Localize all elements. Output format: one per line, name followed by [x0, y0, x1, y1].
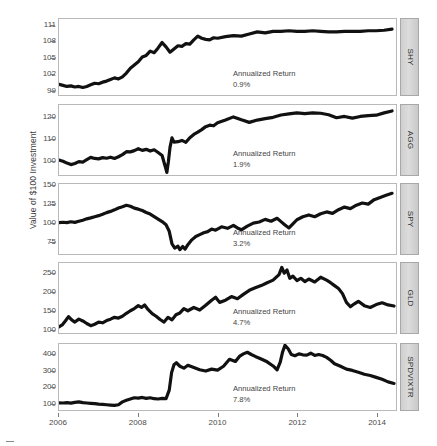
y-axis-ticks-spy: 15012510075 — [0, 183, 56, 255]
annotation-value: 4.7% — [233, 317, 295, 328]
y-tick-mark — [50, 354, 55, 355]
x-tick-label: 2014 — [368, 418, 386, 427]
panel-gld: Annualized Return4.7% — [58, 262, 397, 334]
strip-label-spdvixtr: SPDVIXTR — [400, 343, 419, 411]
plot-area-spdvixtr — [58, 343, 397, 411]
y-tick-mark — [50, 387, 55, 388]
annotation-label: Annualized Return — [233, 149, 295, 158]
series-line-shy — [59, 19, 396, 95]
y-axis-ticks-spdvixtr: 400300200100 — [0, 343, 56, 411]
series-line-agg — [59, 105, 396, 175]
y-tick-mark — [50, 41, 55, 42]
panel-shy: Annualized Return0.9% — [58, 18, 397, 96]
plot-area-agg — [58, 104, 397, 176]
annualized-return-annotation: Annualized Return0.9% — [233, 68, 295, 90]
strip-label-shy: SHY — [400, 18, 419, 96]
annotation-label: Annualized Return — [233, 307, 295, 316]
strip-label-spy: SPY — [400, 183, 419, 255]
x-tick-label: 2010 — [209, 418, 227, 427]
annualized-return-annotation: Annualized Return1.9% — [233, 148, 295, 170]
y-tick-mark — [50, 204, 55, 205]
footer-tickmark — [6, 441, 14, 442]
annualized-return-annotation: Annualized Return3.2% — [233, 227, 295, 249]
y-tick-mark — [50, 139, 55, 140]
annualized-return-annotation: Annualized Return4.7% — [233, 306, 295, 328]
x-tick-label: 2006 — [49, 418, 67, 427]
y-axis-ticks-gld: 250200150100 — [0, 262, 56, 334]
annualized-return-annotation: Annualized Return7.8% — [233, 383, 295, 405]
y-tick-mark — [50, 74, 55, 75]
y-tick-mark — [50, 371, 55, 372]
strip-label-text: AGG — [405, 131, 414, 149]
y-axis-ticks-agg: 120110100 — [0, 104, 56, 176]
x-tick-mark — [377, 413, 378, 417]
y-tick-mark — [50, 311, 55, 312]
y-tick-mark — [50, 58, 55, 59]
annotation-label: Annualized Return — [233, 69, 295, 78]
annotation-value: 0.9% — [233, 79, 295, 90]
strip-label-agg: AGG — [400, 104, 419, 176]
x-tick-mark — [138, 413, 139, 417]
y-tick-mark — [50, 185, 55, 186]
trellis-chart: Value of $100 Investment 11110810510299A… — [0, 0, 437, 446]
strip-label-text: SPY — [405, 211, 414, 228]
strip-label-text: GLD — [405, 289, 414, 306]
y-tick-mark — [50, 25, 55, 26]
series-line-spy — [59, 184, 396, 254]
y-tick-mark — [50, 242, 55, 243]
strip-label-text: SPDVIXTR — [405, 356, 414, 398]
plot-area-spy — [58, 183, 397, 255]
panel-agg: Annualized Return1.9% — [58, 104, 397, 176]
annotation-value: 1.9% — [233, 159, 295, 170]
plot-area-gld — [58, 262, 397, 334]
panel-spy: Annualized Return3.2% — [58, 183, 397, 255]
annotation-value: 7.8% — [233, 394, 295, 405]
strip-label-gld: GLD — [400, 262, 419, 334]
y-tick-mark — [50, 330, 55, 331]
x-tick-mark — [218, 413, 219, 417]
y-tick-mark — [50, 223, 55, 224]
strip-label-text: SHY — [405, 48, 414, 65]
series-line-spdvixtr — [59, 344, 396, 410]
panel-spdvixtr: Annualized Return7.8% — [58, 343, 397, 411]
y-tick-mark — [50, 273, 55, 274]
y-axis-ticks-shy: 11110810510299 — [0, 18, 56, 96]
y-tick-mark — [50, 292, 55, 293]
y-tick-mark — [50, 404, 55, 405]
annotation-label: Annualized Return — [233, 384, 295, 393]
plot-area-shy — [58, 18, 397, 96]
x-tick-mark — [58, 413, 59, 417]
annotation-value: 3.2% — [233, 238, 295, 249]
x-tick-label: 2012 — [288, 418, 306, 427]
x-tick-mark — [297, 413, 298, 417]
y-tick-mark — [50, 91, 55, 92]
x-tick-label: 2008 — [129, 418, 147, 427]
y-tick-mark — [50, 161, 55, 162]
annotation-label: Annualized Return — [233, 228, 295, 237]
y-tick-mark — [50, 117, 55, 118]
series-line-gld — [59, 263, 396, 333]
